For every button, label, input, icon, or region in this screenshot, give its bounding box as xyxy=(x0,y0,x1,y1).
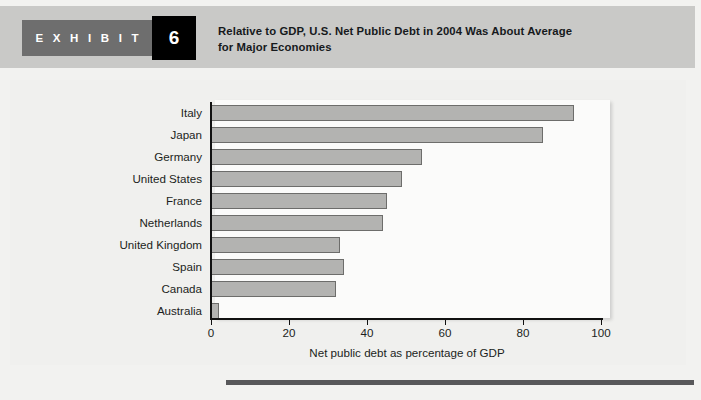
bar-category-label: Netherlands xyxy=(139,212,202,234)
bar xyxy=(211,105,574,121)
bar-row: Italy xyxy=(211,102,601,124)
exhibit-card: E X H I B I T 6 Relative to GDP, U.S. Ne… xyxy=(0,0,701,400)
exhibit-header-band: E X H I B I T 6 Relative to GDP, U.S. Ne… xyxy=(0,6,695,68)
exhibit-number-block: 6 xyxy=(152,16,196,60)
bar xyxy=(211,303,219,319)
bar xyxy=(211,259,344,275)
x-axis-tick xyxy=(601,320,602,325)
bar-row: United States xyxy=(211,168,601,190)
chart-body: ItalyJapanGermanyUnited StatesFranceNeth… xyxy=(10,80,686,365)
page-title: Relative to GDP, U.S. Net Public Debt in… xyxy=(218,24,648,55)
bar-category-label: Australia xyxy=(157,300,202,322)
bar-category-label: France xyxy=(166,190,202,212)
exhibit-title-line-1: Relative to GDP, U.S. Net Public Debt in… xyxy=(218,25,572,37)
bar xyxy=(211,171,402,187)
bar-row: Japan xyxy=(211,124,601,146)
x-axis-tick xyxy=(211,320,212,325)
y-axis-line xyxy=(210,102,212,320)
x-axis-tick xyxy=(367,320,368,325)
bar xyxy=(211,215,383,231)
bar-category-label: Germany xyxy=(154,146,202,168)
bar xyxy=(211,127,543,143)
bar-row: Germany xyxy=(211,146,601,168)
bar-chart-plot-area: ItalyJapanGermanyUnited StatesFranceNeth… xyxy=(211,102,601,318)
x-axis-tick-label: 20 xyxy=(269,326,309,339)
bar-category-label: Canada xyxy=(161,278,202,300)
bar-category-label: Italy xyxy=(181,102,202,124)
bar-category-label: United Kingdom xyxy=(120,234,203,256)
exhibit-tag-label: E X H I B I T xyxy=(22,20,152,56)
bar-row: Netherlands xyxy=(211,212,601,234)
bar-row: United Kingdom xyxy=(211,234,601,256)
bar xyxy=(211,237,340,253)
exhibit-tag-block: E X H I B I T xyxy=(22,20,152,56)
bar-category-label: Spain xyxy=(172,256,202,278)
bar-row: Canada xyxy=(211,278,601,300)
bottom-rule xyxy=(226,380,694,385)
bar xyxy=(211,193,387,209)
bar-category-label: Japan xyxy=(170,124,202,146)
x-axis-tick-label: 0 xyxy=(191,326,231,339)
x-axis-tick xyxy=(445,320,446,325)
exhibit-title-line-2: for Major Economies xyxy=(218,41,332,53)
bar-row: Spain xyxy=(211,256,601,278)
x-axis-title: Net public debt as percentage of GDP xyxy=(211,346,603,359)
exhibit-number: 6 xyxy=(152,16,196,60)
bar xyxy=(211,149,422,165)
bar-row: France xyxy=(211,190,601,212)
x-axis-tick-label: 80 xyxy=(503,326,543,339)
x-axis-line xyxy=(211,318,603,320)
x-axis-tick-label: 60 xyxy=(425,326,465,339)
x-axis-tick-label: 40 xyxy=(347,326,387,339)
x-axis-tick-label: 100 xyxy=(581,326,621,339)
bar xyxy=(211,281,336,297)
bar-category-label: United States xyxy=(132,168,202,190)
x-axis-tick xyxy=(289,320,290,325)
x-axis-tick xyxy=(523,320,524,325)
